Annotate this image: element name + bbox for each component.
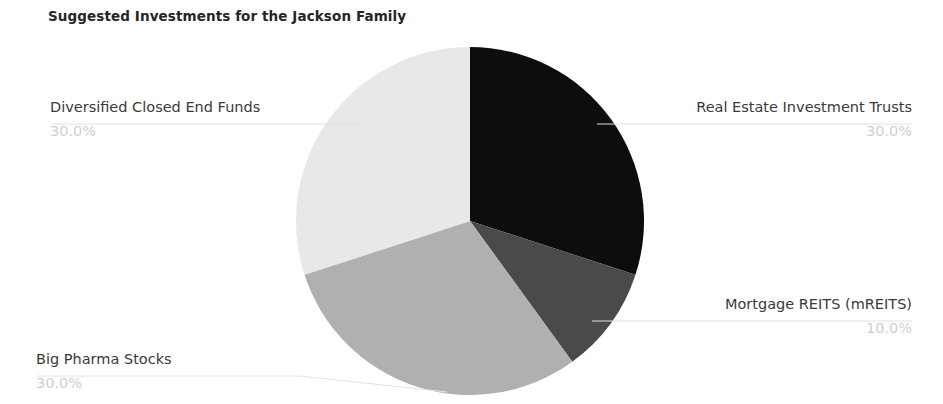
pie-chart-figure: Suggested Investments for the Jackson Fa…: [0, 0, 943, 404]
pie-label-name: Big Pharma Stocks: [36, 352, 172, 367]
pie-label-percent: 10.0%: [725, 321, 912, 336]
pie-label-big-pharma-stocks: Big Pharma Stocks 30.0%: [36, 352, 172, 390]
pie-label-name: Real Estate Investment Trusts: [696, 100, 912, 115]
pie-label-name: Mortgage REITS (mREITS): [725, 297, 912, 312]
pie-label-diversified-closed-end-funds: Diversified Closed End Funds 30.0%: [50, 100, 260, 138]
pie-label-percent: 30.0%: [50, 124, 260, 139]
pie-chart-canvas: [0, 0, 943, 404]
pie-label-mortgage-reits: Mortgage REITS (mREITS) 10.0%: [725, 297, 912, 335]
pie-label-real-estate-investment-trusts: Real Estate Investment Trusts 30.0%: [696, 100, 912, 138]
pie-label-name: Diversified Closed End Funds: [50, 100, 260, 115]
pie-label-percent: 30.0%: [36, 376, 172, 391]
pie-label-percent: 30.0%: [696, 124, 912, 139]
